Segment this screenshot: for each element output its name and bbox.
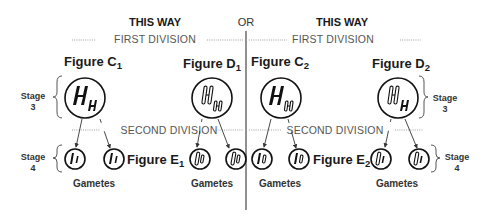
figure-c1-label: Figure C1 xyxy=(64,54,123,71)
right-stage4-label: Stage xyxy=(445,152,470,162)
gametes-label: Gametes xyxy=(376,178,419,189)
gamete-cell xyxy=(289,149,309,169)
svg-text:Figure E1: Figure E1 xyxy=(127,152,185,169)
svg-text:Figure D2: Figure D2 xyxy=(372,56,430,73)
chromosome-solid-large-icon xyxy=(269,86,284,105)
arrow xyxy=(264,119,271,147)
second-division-right-label: SECOND DIVISION xyxy=(287,124,384,136)
chromosome-solid-small-icon xyxy=(88,100,97,111)
chromosome-outlined-small-icon xyxy=(213,101,222,111)
figure-e2-label: Figure E2 xyxy=(313,152,370,169)
gamete-cell xyxy=(65,149,85,169)
arrow xyxy=(405,119,417,148)
cell-c1 xyxy=(65,78,105,118)
gamete-cell xyxy=(252,149,272,169)
arrow xyxy=(385,119,391,147)
right-stage3-brace xyxy=(419,76,428,118)
cell-d1 xyxy=(192,78,232,118)
left-this-way-heading: THIS WAY xyxy=(129,16,182,28)
figure-d1-label: Figure D1 xyxy=(183,56,242,73)
chromosome-outlined-small-icon xyxy=(284,101,293,111)
right-stage3-number: 3 xyxy=(442,104,447,114)
left-stage3-number: 3 xyxy=(30,102,35,112)
second-division-left-label: SECOND DIVISION xyxy=(121,124,218,136)
svg-text:Figure E2: Figure E2 xyxy=(313,152,370,169)
chromosome-solid-large-icon xyxy=(73,86,88,105)
chromosome-outlined-large-icon xyxy=(202,86,213,104)
right-this-way-heading: THIS WAY xyxy=(316,16,369,28)
gametes-label: Gametes xyxy=(259,178,302,189)
or-separator: OR xyxy=(238,16,255,28)
chromosome-solid-small-icon xyxy=(400,100,409,111)
left-stage4-brace xyxy=(53,145,62,172)
gamete-cell xyxy=(226,149,246,169)
svg-text:Figure D1: Figure D1 xyxy=(183,56,242,73)
gametes-label: Gametes xyxy=(73,178,116,189)
arrow xyxy=(76,119,82,147)
left-stage3-label: Stage xyxy=(21,91,46,101)
gamete-cell xyxy=(371,149,391,169)
left-stage4-label: Stage xyxy=(21,152,46,162)
meiosis-diagram: THIS WAY OR THIS WAY FIRST DIVISION FIRS… xyxy=(0,0,486,220)
arrow xyxy=(218,119,229,148)
gamete-cell xyxy=(409,149,429,169)
chromosome-outlined-large-icon xyxy=(388,86,399,104)
left-stage4-number: 4 xyxy=(30,163,35,173)
cell-c2 xyxy=(261,78,301,118)
cell-d2 xyxy=(378,78,418,118)
right-stage4-brace xyxy=(431,145,440,172)
arrow xyxy=(100,119,110,148)
right-stage3-label: Stage xyxy=(433,93,458,103)
left-stage3-brace xyxy=(53,76,62,118)
svg-text:Figure C2: Figure C2 xyxy=(251,54,309,71)
gametes-label: Gametes xyxy=(191,178,234,189)
svg-text:Figure C1: Figure C1 xyxy=(64,54,123,71)
figure-e1-label: Figure E1 xyxy=(127,152,185,169)
figure-d2-label: Figure D2 xyxy=(372,56,430,73)
right-stage4-number: 4 xyxy=(454,163,459,173)
first-division-left-label: FIRST DIVISION xyxy=(114,33,196,45)
gamete-cell xyxy=(190,149,210,169)
figure-c2-label: Figure C2 xyxy=(251,54,309,71)
first-division-right-label: FIRST DIVISION xyxy=(292,33,374,45)
gamete-cell xyxy=(104,149,124,169)
